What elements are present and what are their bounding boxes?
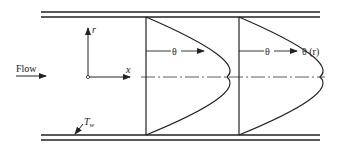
flow-label: Flow [16, 63, 37, 74]
coordinate-axes [86, 28, 130, 79]
diagram-svg: Flow r x Tw θ θ θ (r) [0, 0, 337, 149]
wall-temp-arrow [75, 124, 83, 134]
temperature-profile-1 [146, 17, 230, 135]
wall-temp-label: Tw [84, 116, 95, 129]
top-wall [41, 12, 320, 17]
theta-label-1: θ [172, 46, 177, 57]
temperature-profile-2 [239, 17, 323, 135]
pipe-flow-diagram: Flow r x Tw θ θ θ (r) [0, 0, 337, 149]
theta-label-2: θ [265, 46, 270, 57]
r-axis-label: r [92, 24, 96, 35]
theta-r-label: θ (r) [302, 46, 319, 58]
bottom-wall [41, 135, 320, 140]
x-axis-label: x [125, 64, 131, 75]
